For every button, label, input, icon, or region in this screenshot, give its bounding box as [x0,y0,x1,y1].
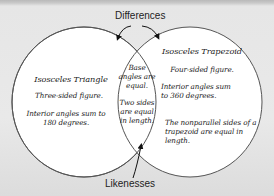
left-circle-title: Isosceles Triangle [28,74,114,84]
overlap-fact-1: Base angles are equal. [117,63,157,90]
venn-diagram: Differences Likenesses Isosceles Triangl… [0,0,274,196]
right-fact-2: Interior angles sum to 360 degrees. [161,82,233,100]
left-fact-1: Three-sided figure. [24,91,114,100]
right-fact-1: Four-sided figure. [162,65,242,74]
overlap-fact-2: Two sides are equal in length. [117,98,157,125]
arrow-to-left [118,26,131,38]
differences-label: Differences [115,10,165,21]
right-fact-3: The nonparallel sides of a trapezoid are… [165,118,263,145]
likenesses-label: Likenesses [105,178,155,189]
left-fact-2: Interior angles sum to 180 degrees. [26,109,106,127]
right-circle-title: Isosceles Trapezoid [152,46,252,56]
